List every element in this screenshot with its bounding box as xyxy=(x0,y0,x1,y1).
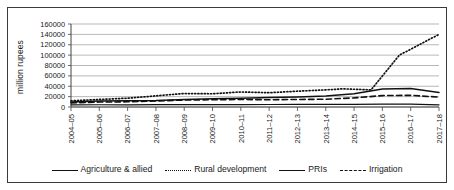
legend-label: Agriculture & allied xyxy=(81,165,153,174)
page-bleed-text xyxy=(40,0,434,5)
series-line-pris xyxy=(71,104,439,105)
legend-label: Irrigation xyxy=(369,165,402,174)
legend-item[interactable]: Rural development xyxy=(165,165,266,174)
legend-item[interactable]: PRIs xyxy=(279,165,327,174)
x-tick-label: 2009–10 xyxy=(208,114,217,144)
x-tick-label: 2010–11 xyxy=(237,114,246,143)
x-axis-tick-labels: 2004–052005–062006–072007–082008–092009–… xyxy=(67,114,444,144)
y-tick-label: 20000 xyxy=(44,92,65,101)
y-tick-label: 60000 xyxy=(44,71,65,80)
x-tick-label: 2017–18 xyxy=(435,114,444,144)
y-axis-tick-labels: 0200004000060000800001000001200001400001… xyxy=(40,20,71,112)
plot-area: 0200004000060000800001000001200001400001… xyxy=(8,8,448,184)
x-tick-label: 2006–07 xyxy=(123,114,132,144)
series-line-rural-development xyxy=(71,34,439,100)
chart-figure: million rupees 0200004000060000800001000… xyxy=(0,0,454,190)
legend-swatch-solid xyxy=(52,165,78,174)
x-tick-label: 2008–09 xyxy=(180,114,189,144)
legend-item[interactable]: Irrigation xyxy=(340,165,402,174)
x-tick-label: 2004–05 xyxy=(67,114,76,144)
line-chart-svg: 0200004000060000800001000001200001400001… xyxy=(8,8,448,184)
legend-label: Rural development xyxy=(194,165,266,174)
y-tick-label: 0 xyxy=(61,103,65,112)
x-tick-label: 2015–16 xyxy=(378,114,387,144)
chart-frame: million rupees 0200004000060000800001000… xyxy=(7,7,447,183)
legend-swatch-thin xyxy=(279,165,305,174)
legend-label: PRIs xyxy=(308,165,327,174)
y-tick-label: 80000 xyxy=(44,61,65,70)
y-tick-label: 160000 xyxy=(40,20,65,29)
x-tick-label: 2013–14 xyxy=(322,114,331,144)
x-tick-label: 2007–08 xyxy=(152,114,161,144)
chart-legend: Agriculture & alliedRural developmentPRI… xyxy=(8,165,446,174)
y-tick-label: 40000 xyxy=(44,82,65,91)
x-tick-label: 2016–17 xyxy=(406,114,415,144)
legend-item[interactable]: Agriculture & allied xyxy=(52,165,153,174)
x-tick-label: 2014–15 xyxy=(350,114,359,144)
legend-swatch-dotted xyxy=(165,165,191,174)
x-tick-label: 2011–12 xyxy=(265,114,274,143)
y-tick-label: 100000 xyxy=(40,51,65,60)
x-axis-ticks xyxy=(71,107,439,111)
y-tick-label: 120000 xyxy=(40,40,65,49)
y-tick-label: 140000 xyxy=(40,30,65,39)
legend-swatch-dashed xyxy=(340,165,366,174)
x-tick-label: 2005–06 xyxy=(95,114,104,144)
gridlines xyxy=(71,24,439,107)
x-tick-label: 2012–13 xyxy=(293,114,302,144)
